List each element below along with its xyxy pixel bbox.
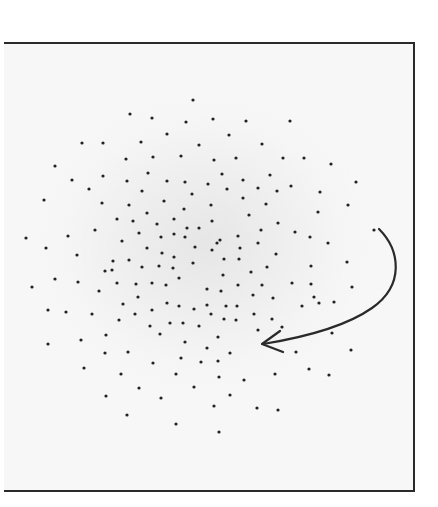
scatter-dot: [270, 317, 273, 320]
scatter-dot: [216, 359, 219, 362]
scatter-dot: [110, 268, 113, 271]
scatter-dot: [100, 201, 103, 204]
scatter-dot: [46, 308, 49, 311]
scatter-dot: [222, 317, 225, 320]
scatter-dot: [119, 372, 122, 375]
scatter-dot: [101, 174, 104, 177]
scatter-dot: [256, 328, 259, 331]
scatter-dot: [236, 283, 239, 286]
scatter-dot: [217, 430, 220, 433]
scatter-dot: [228, 393, 231, 396]
scatter-dot: [211, 117, 214, 120]
scatter-dot: [206, 182, 209, 185]
scatter-dot: [93, 228, 96, 231]
scatter-dot: [179, 154, 182, 157]
scatter-dot: [145, 211, 148, 214]
scatter-dot: [128, 112, 131, 115]
scatter-dot: [75, 253, 78, 256]
scatter-dot: [136, 295, 139, 298]
scatter-dot: [150, 308, 153, 311]
scatter-dot: [220, 172, 223, 175]
scatter-dot: [215, 241, 218, 244]
scatter-dot: [264, 202, 267, 205]
scatter-dot: [137, 386, 140, 389]
scatter-dot: [227, 133, 230, 136]
scatter-dot: [252, 312, 255, 315]
scatter-dot: [237, 257, 240, 260]
scatter-dot: [217, 375, 220, 378]
scatter-dot: [210, 248, 213, 251]
scatter-dot: [181, 321, 184, 324]
scatter-dot: [241, 178, 244, 181]
scatter-dot: [97, 289, 100, 292]
scatter-dot: [197, 226, 200, 229]
scatter-dot: [164, 283, 167, 286]
scatter-dot: [228, 351, 231, 354]
scatter-dot: [329, 162, 332, 165]
scatter-dot: [53, 164, 56, 167]
scatter-dot: [179, 356, 182, 359]
scatter-dot: [140, 189, 143, 192]
scatter-dot: [165, 179, 168, 182]
scatter-dot: [199, 360, 202, 363]
scatter-dot: [70, 178, 73, 181]
scatter-dot: [158, 332, 161, 335]
scatter-dot: [302, 156, 305, 159]
scatter-dot: [42, 198, 45, 201]
scatter-dot: [184, 120, 187, 123]
scatter-dot: [120, 239, 123, 242]
scatter-dot: [151, 155, 154, 158]
scatter-dot: [172, 232, 175, 235]
scatter-dot: [182, 207, 185, 210]
scatter-dot: [273, 372, 276, 375]
scatter-dot: [260, 283, 263, 286]
scatter-dot: [165, 132, 168, 135]
scatter-dot: [251, 293, 254, 296]
scatter-dot: [66, 234, 69, 237]
scatter-dot: [103, 351, 106, 354]
scatter-dot: [209, 312, 212, 315]
scatter-dot: [44, 246, 47, 249]
scatter-dot: [139, 140, 142, 143]
scatter-dot: [183, 235, 186, 238]
scatter-dot: [218, 238, 221, 241]
scatter-dot: [212, 158, 215, 161]
scatter-dot: [308, 235, 311, 238]
scatter-dot: [24, 236, 27, 239]
scatter-dot: [127, 203, 130, 206]
scatter-dot: [174, 422, 177, 425]
scatter-dot: [289, 184, 292, 187]
scatter-dot: [350, 285, 353, 288]
scatter-dot: [290, 281, 293, 284]
scatter-dot: [171, 266, 174, 269]
scatter-dot: [87, 187, 90, 190]
scatter-dot: [318, 190, 321, 193]
scatter-dot: [276, 408, 279, 411]
scatter-dot: [317, 301, 320, 304]
scatter-dot: [197, 143, 200, 146]
scatter-dot: [235, 304, 238, 307]
scatter-dot: [124, 157, 127, 160]
scatter-dot: [234, 156, 237, 159]
scatter-dot: [111, 259, 114, 262]
scatter-dot: [177, 276, 180, 279]
scatter-dot: [150, 116, 153, 119]
scatter-dot: [104, 333, 107, 336]
scatter-dot: [121, 302, 124, 305]
scatter-dot: [185, 226, 188, 229]
scatter-dot: [53, 277, 56, 280]
scatter-dot: [151, 361, 154, 364]
scatter-dot: [293, 230, 296, 233]
scatter-dot: [172, 217, 175, 220]
scatter-dot: [157, 264, 160, 267]
scatter-dot: [221, 273, 224, 276]
scatter-dot: [101, 141, 104, 144]
scatter-dot: [134, 282, 137, 285]
scatter-dot: [307, 367, 310, 370]
scatter-dot: [162, 199, 165, 202]
scatter-dot: [255, 406, 258, 409]
scatter-dot: [332, 300, 335, 303]
scatter-dot: [145, 246, 148, 249]
scatter-dot: [274, 252, 277, 255]
scatter-dot: [345, 260, 348, 263]
